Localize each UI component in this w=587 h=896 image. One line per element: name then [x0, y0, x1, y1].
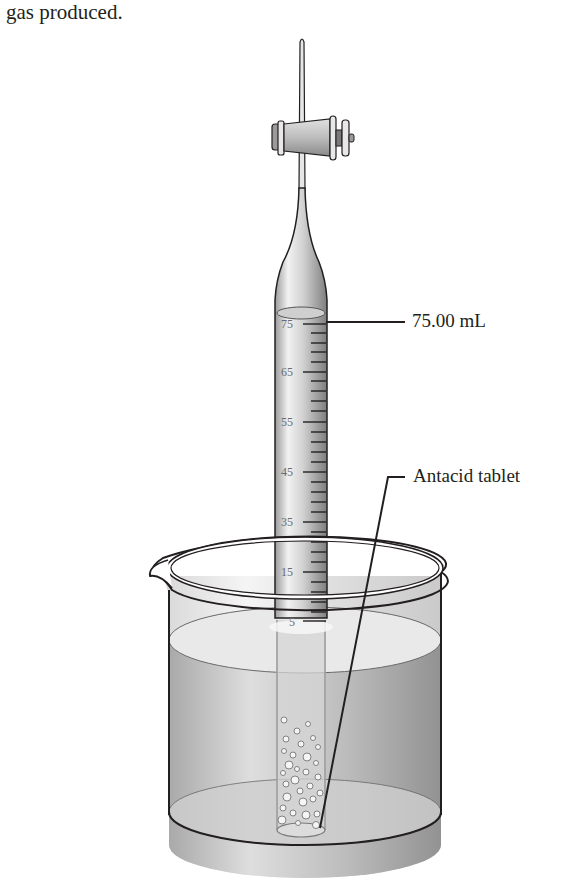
scale-label-45: 45 [281, 465, 293, 479]
buret [269, 39, 333, 837]
volume-label: 75.00 mL [412, 310, 486, 332]
stopcock[interactable] [272, 116, 354, 160]
antacid-tablet-label: Antacid tablet [413, 465, 520, 487]
gas-collection-diagram: 75 65 55 45 35 15 5 [0, 0, 587, 896]
scale-label-15: 15 [281, 565, 293, 579]
scale-label-55: 55 [281, 415, 293, 429]
scale-label-65: 65 [281, 365, 293, 379]
scale-label-35: 35 [281, 515, 293, 529]
scale-label-5: 5 [289, 615, 295, 629]
scale-label-75: 75 [281, 317, 293, 331]
